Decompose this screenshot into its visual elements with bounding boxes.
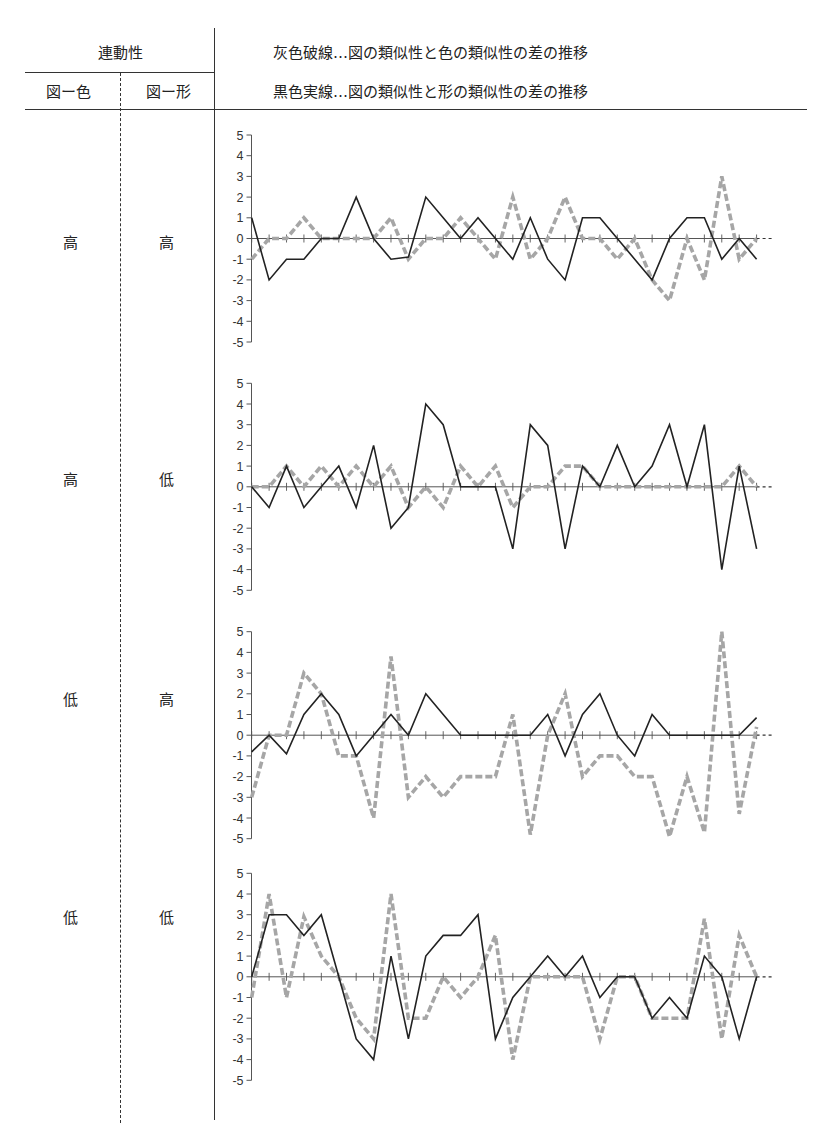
y-tick-label: -5 (232, 336, 243, 350)
y-tick-label: 5 (237, 129, 244, 143)
y-tick-label: 4 (237, 646, 244, 660)
y-tick-label: -1 (232, 991, 243, 1005)
y-tick-label: -4 (232, 563, 243, 577)
line-chart-1: 543210-1-2-3-4-5 (232, 129, 773, 350)
y-tick-label: 5 (237, 377, 244, 391)
y-tick-label: 3 (237, 667, 244, 681)
y-tick-label: -3 (232, 791, 243, 805)
y-tick-label: -4 (232, 812, 243, 826)
series-gray-dashed (252, 632, 757, 837)
y-tick-label: -3 (232, 542, 243, 556)
y-tick-label: 3 (237, 418, 244, 432)
y-tick-label: -5 (232, 1074, 243, 1088)
y-tick-label: -3 (232, 294, 243, 308)
y-tick-label: -2 (232, 1012, 243, 1026)
y-tick-label: 0 (237, 970, 244, 984)
line-charts-panel: 543210-1-2-3-4-5543210-1-2-3-4-5543210-1… (0, 0, 822, 1138)
y-tick-label: 4 (237, 398, 244, 412)
y-tick-label: 2 (237, 929, 244, 943)
y-tick-label: 3 (237, 908, 244, 922)
y-tick-label: -1 (232, 253, 243, 267)
series-black-solid (252, 915, 757, 1060)
y-tick-label: -2 (232, 522, 243, 536)
y-tick-label: 1 (237, 211, 244, 225)
y-tick-label: 0 (237, 232, 244, 246)
y-tick-label: 4 (237, 149, 244, 163)
line-chart-4: 543210-1-2-3-4-5 (232, 867, 773, 1088)
y-tick-label: -1 (232, 749, 243, 763)
y-tick-label: 2 (237, 439, 244, 453)
y-tick-label: -2 (232, 770, 243, 784)
y-tick-label: -5 (232, 584, 243, 598)
y-tick-label: 2 (237, 687, 244, 701)
y-tick-label: -5 (232, 832, 243, 846)
y-tick-label: -2 (232, 273, 243, 287)
y-tick-label: -4 (232, 1053, 243, 1067)
y-tick-label: 4 (237, 888, 244, 902)
y-tick-label: -3 (232, 1032, 243, 1046)
y-tick-label: 0 (237, 729, 244, 743)
y-tick-label: 3 (237, 170, 244, 184)
y-tick-label: -4 (232, 315, 243, 329)
y-tick-label: 2 (237, 191, 244, 205)
y-tick-label: 5 (237, 625, 244, 639)
line-chart-3: 543210-1-2-3-4-5 (232, 625, 773, 846)
y-tick-label: 1 (237, 708, 244, 722)
y-tick-label: 1 (237, 460, 244, 474)
y-tick-label: 0 (237, 480, 244, 494)
y-tick-label: 5 (237, 867, 244, 881)
line-chart-2: 543210-1-2-3-4-5 (232, 377, 773, 598)
y-tick-label: 1 (237, 950, 244, 964)
y-tick-label: -1 (232, 501, 243, 515)
